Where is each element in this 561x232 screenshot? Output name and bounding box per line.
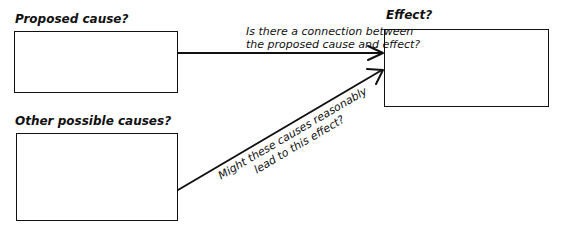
- arrow-other-to-effect: [178, 70, 382, 190]
- edge-note-line: Is there a connection between: [246, 25, 386, 38]
- edge-note-line: the proposed cause and effect?: [246, 38, 386, 51]
- edge-note-proposed-to-effect: Is there a connection between the propos…: [246, 25, 386, 51]
